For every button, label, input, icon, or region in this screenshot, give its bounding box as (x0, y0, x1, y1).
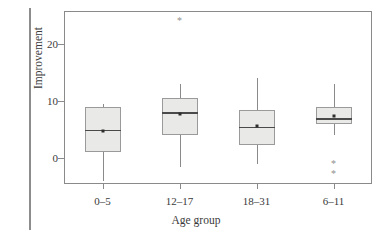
y-tick-label: 0 (2, 153, 58, 164)
box-iqr (162, 98, 198, 135)
plot-frame (64, 11, 372, 184)
boxplot-figure: Improvement 01020 0–512–1718–316–11 *** … (0, 0, 392, 237)
whisker-upper (334, 84, 335, 107)
x-axis-title: Age group (0, 214, 392, 226)
mean-marker (255, 124, 258, 127)
whisker-upper (180, 84, 181, 98)
whisker-upper (257, 78, 258, 109)
mean-marker (178, 112, 181, 115)
median-line (316, 118, 352, 120)
y-tick-mark (58, 158, 64, 159)
whisker-lower (257, 145, 258, 164)
x-tick-mark (334, 184, 335, 189)
x-tick-mark (257, 184, 258, 189)
x-tick-label: 12–17 (166, 196, 194, 207)
x-tick-label: 0–5 (94, 196, 111, 207)
mean-marker (332, 114, 335, 117)
whisker-lower (334, 124, 335, 135)
x-tick-mark (180, 184, 181, 189)
whisker-lower (103, 152, 104, 181)
x-tick-label: 18–31 (243, 196, 271, 207)
y-tick-mark (58, 101, 64, 102)
y-tick-label: 10 (2, 96, 58, 107)
y-tick-label: 20 (2, 39, 58, 50)
whisker-lower (180, 135, 181, 167)
y-tick-mark (58, 44, 64, 45)
outlier-asterisk: * (177, 16, 182, 26)
mean-marker (101, 129, 104, 132)
x-tick-label: 6–11 (323, 196, 345, 207)
outlier-asterisk: * (331, 169, 336, 179)
x-tick-mark (103, 184, 104, 189)
